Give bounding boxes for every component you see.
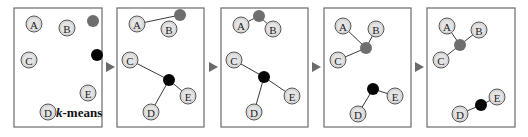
node-label: B [269, 24, 276, 36]
node-label: D [250, 107, 258, 119]
node-label: C [126, 55, 133, 67]
node-label: C [437, 55, 444, 67]
node-label: B [165, 24, 172, 36]
data-point-b: B [265, 21, 281, 37]
kmeans-caption: k-means [56, 105, 102, 120]
node-label: D [354, 109, 362, 121]
data-point-a: A [233, 17, 249, 33]
data-point-c: C [21, 52, 37, 68]
data-point-c: C [433, 52, 449, 68]
step-arrow-icon [415, 62, 424, 72]
data-point-e: E [489, 89, 505, 105]
kmeans-diagram: ABCEDABCEDABCEDABCEDABCED k-means [0, 0, 528, 137]
centroid-black-icon [475, 99, 487, 111]
node-label: D [456, 109, 464, 121]
data-point-a: A [439, 18, 455, 34]
step-arrow-icon [106, 62, 115, 72]
centroid-gray-icon [174, 9, 186, 21]
data-point-d: D [350, 106, 366, 122]
node-label: B [372, 24, 379, 36]
data-point-d: D [452, 106, 468, 122]
node-label: A [30, 19, 38, 31]
step-arrow-icon [209, 62, 218, 72]
data-point-a: A [26, 16, 42, 32]
node-label: A [339, 21, 347, 33]
node-label: E [494, 92, 501, 104]
node-label: A [237, 20, 245, 32]
node-label: A [443, 21, 451, 33]
data-point-d: D [246, 104, 262, 120]
node-label: E [289, 91, 296, 103]
node-label: A [133, 19, 141, 31]
data-point-d: D [143, 104, 159, 120]
node-label: D [44, 107, 52, 119]
data-point-a: A [129, 16, 145, 32]
node-label: C [230, 55, 237, 67]
centroid-gray-icon [253, 10, 265, 22]
centroid-black-icon [163, 74, 175, 86]
centroid-gray-icon [87, 15, 99, 27]
centroid-gray-icon [360, 42, 372, 54]
node-label: E [392, 91, 399, 103]
step-arrow-icon [312, 62, 321, 72]
data-point-e: E [180, 88, 196, 104]
centroid-black-icon [367, 83, 379, 95]
data-point-b: B [368, 21, 384, 37]
data-point-d: D [40, 104, 56, 120]
data-point-c: C [330, 52, 346, 68]
data-point-b: B [471, 22, 487, 38]
caption-means: -means [63, 105, 103, 120]
panel-step-5: ABCED [427, 8, 515, 127]
centroid-black-icon [91, 49, 103, 61]
data-point-a: A [335, 18, 351, 34]
data-point-e: E [80, 85, 96, 101]
node-label: C [334, 55, 341, 67]
centroid-black-icon [258, 71, 270, 83]
data-point-c: C [122, 52, 138, 68]
data-point-b: B [161, 21, 177, 37]
data-point-e: E [387, 88, 403, 104]
node-label: E [85, 88, 92, 100]
panel-step-2: ABCED [117, 8, 204, 127]
centroid-gray-icon [454, 39, 466, 51]
panel-step-4: ABCED [324, 8, 411, 127]
node-label: B [475, 25, 482, 37]
data-point-b: B [59, 20, 75, 36]
panel-step-3: ABCED [221, 8, 308, 127]
node-label: D [147, 107, 155, 119]
node-label: E [185, 91, 192, 103]
node-label: B [63, 23, 70, 35]
data-point-c: C [226, 52, 242, 68]
data-point-e: E [284, 88, 300, 104]
node-label: C [25, 55, 32, 67]
